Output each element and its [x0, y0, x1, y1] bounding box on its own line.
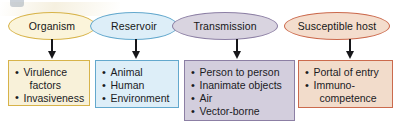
- down-arrow-icon-reservoir: [131, 39, 140, 61]
- chain-of-infection-diagram: Organism Reservoir Transmission Suscepti…: [0, 0, 396, 126]
- list-item: Inanimate objects: [191, 79, 289, 92]
- list-item: Environment: [102, 92, 173, 105]
- detail-box-susceptible-host: Portal of entry Immuno- competence: [298, 60, 393, 108]
- detail-box-reservoir: Animal Human Environment: [95, 60, 179, 108]
- list-item-text: Human: [111, 79, 145, 91]
- arrow-head: [132, 51, 140, 59]
- cropped-logo-artifact: [10, 0, 24, 7]
- detail-list-organism: Virulence factors Invasiveness: [15, 66, 84, 104]
- detail-list-reservoir: Animal Human Environment: [102, 66, 173, 105]
- node-label-transmission: Transmission: [193, 20, 256, 32]
- list-item-text: Virulence: [24, 66, 68, 78]
- node-label-reservoir: Reservoir: [111, 20, 157, 32]
- list-item-text: Environment: [111, 92, 170, 104]
- list-item: Air: [191, 92, 289, 105]
- node-label-susceptible-host: Susceptible host: [298, 20, 377, 32]
- detail-list-susceptible-host: Portal of entry Immuno- competence: [305, 66, 387, 104]
- list-item: Person to person: [191, 66, 289, 79]
- list-item-text: Portal of entry: [314, 66, 379, 78]
- list-item-text: Animal: [111, 66, 143, 78]
- detail-list-transmission: Person to person Inanimate objects Air V…: [191, 66, 289, 118]
- list-item: Human: [102, 79, 173, 92]
- list-item-text: Air: [200, 92, 213, 104]
- arrow-head: [346, 51, 354, 59]
- list-item-continuation: factors: [24, 79, 85, 92]
- node-ellipse-transmission: Transmission: [172, 12, 278, 40]
- list-item-text: Person to person: [200, 66, 280, 78]
- list-item-text: Inanimate objects: [200, 79, 282, 91]
- node-ellipse-reservoir: Reservoir: [90, 12, 178, 40]
- list-item-text: Invasiveness: [24, 92, 85, 104]
- down-arrow-icon-transmission: [232, 39, 241, 61]
- list-item: Invasiveness: [15, 92, 84, 105]
- arrow-head: [48, 51, 56, 59]
- down-arrow-icon-susceptible-host: [345, 39, 354, 61]
- node-ellipse-organism: Organism: [8, 12, 96, 40]
- list-item: Vector-borne: [191, 105, 289, 118]
- list-item-text: Immuno-: [314, 79, 355, 91]
- list-item-continuation: competence: [314, 92, 388, 105]
- list-item: Virulence factors: [15, 66, 84, 91]
- arrow-head: [233, 51, 241, 59]
- node-ellipse-susceptible-host: Susceptible host: [284, 12, 390, 40]
- list-item: Portal of entry: [305, 66, 387, 79]
- list-item: Animal: [102, 66, 173, 79]
- list-item-text: Vector-borne: [200, 105, 260, 117]
- list-item: Immuno- competence: [305, 79, 387, 104]
- node-label-organism: Organism: [29, 20, 75, 32]
- detail-box-transmission: Person to person Inanimate objects Air V…: [184, 60, 295, 121]
- detail-box-organism: Virulence factors Invasiveness: [8, 60, 90, 106]
- down-arrow-icon-organism: [47, 39, 56, 61]
